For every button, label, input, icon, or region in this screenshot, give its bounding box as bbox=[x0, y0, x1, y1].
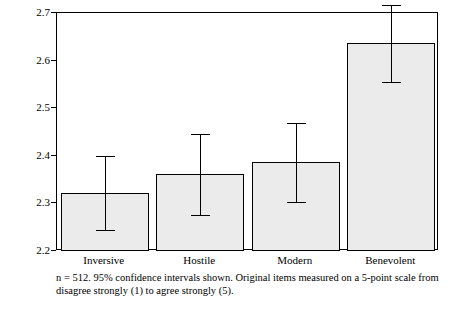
x-axis-tick-label: Modern bbox=[277, 254, 312, 266]
y-axis-tick-label: 2.7 bbox=[36, 7, 50, 18]
error-bar-cap-upper bbox=[382, 5, 401, 6]
error-bar-line bbox=[391, 5, 392, 81]
chart-annotation: n = 512. 95% confidence intervals shown.… bbox=[56, 272, 448, 297]
plot-frame bbox=[56, 12, 438, 250]
y-axis-tick-label: 2.6 bbox=[36, 54, 50, 65]
x-axis: InversiveHostileModernBenevolent bbox=[56, 252, 438, 270]
error-bar-cap-lower bbox=[96, 230, 115, 231]
x-axis-tick-label: Inversive bbox=[83, 254, 124, 266]
x-axis-tick-label: Benevolent bbox=[365, 254, 415, 266]
y-axis-tick-label: 2.5 bbox=[36, 102, 50, 113]
error-bar-line bbox=[200, 134, 201, 215]
error-bar-line bbox=[105, 156, 106, 229]
x-axis-tick-label: Hostile bbox=[183, 254, 215, 266]
y-axis-tick-label: 2.2 bbox=[36, 245, 50, 256]
error-bar-cap-upper bbox=[191, 134, 210, 135]
error-bar-line bbox=[296, 123, 297, 202]
error-bar-cap-lower bbox=[191, 215, 210, 216]
y-axis-tick-mark bbox=[51, 250, 56, 251]
y-axis-tick-label: 2.3 bbox=[36, 197, 50, 208]
chart-figure: 2.22.32.42.52.62.7 InversiveHostileModer… bbox=[0, 0, 457, 326]
annotation-line-1: n = 512. 95% confidence intervals shown.… bbox=[56, 272, 448, 285]
error-bar-cap-upper bbox=[287, 123, 306, 124]
y-axis: 2.22.32.42.52.62.7 bbox=[0, 12, 56, 252]
plot-area bbox=[57, 13, 437, 249]
annotation-line-2: disagree strongly (1) to agree strongly … bbox=[56, 285, 448, 298]
y-axis-tick-label: 2.4 bbox=[36, 149, 50, 160]
error-bar-cap-lower bbox=[382, 82, 401, 83]
error-bar-cap-lower bbox=[287, 202, 306, 203]
error-bar-cap-upper bbox=[96, 156, 115, 157]
